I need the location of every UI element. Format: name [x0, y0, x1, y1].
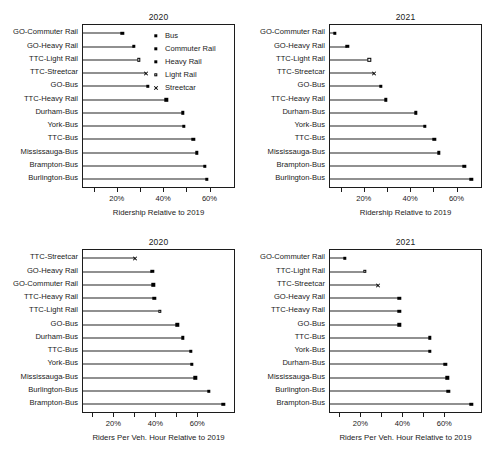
x-axis-title: Riders Per Veh. Hour Relative to 2019: [289, 433, 493, 442]
x-axis-tick-label: 20%: [353, 419, 368, 428]
y-axis-label: GO-Bus: [51, 81, 78, 89]
panel-bottom-left: 2020 TTC-StreetcarGO-Heavy RailGO-Commut…: [0, 233, 246, 453]
lollipop-row: [83, 298, 236, 299]
data-point-marker: [372, 71, 377, 76]
lollipop-row: [83, 271, 236, 272]
lollipop-row: [83, 179, 236, 180]
y-axis-label: GO-Heavy Rail: [274, 42, 325, 50]
lollipop-stem: [83, 258, 135, 259]
lollipop-stem: [330, 284, 378, 285]
x-axis-tick: [444, 413, 445, 417]
x-axis-tick-label: 40%: [156, 194, 171, 203]
lollipop-stem: [83, 311, 160, 312]
data-point-marker: [121, 32, 124, 35]
data-point-marker: [343, 257, 346, 260]
x-axis-tick-label: 40%: [395, 419, 410, 428]
lollipop-stem: [330, 59, 369, 60]
lollipop-stem: [330, 337, 430, 338]
y-axis-category-labels: GO-Commuter RailGO-Heavy RailTTC-Light R…: [247, 24, 325, 188]
lollipop-stem: [83, 351, 191, 352]
x-axis-tick: [155, 413, 156, 417]
lollipop-stem: [330, 86, 381, 87]
y-axis-label: TTC-Streetcar: [277, 280, 325, 288]
lollipop-row: [330, 404, 483, 405]
panel-bottom-right: 2021 GO-Commuter RailTTC-Light RailTTC-S…: [247, 233, 493, 453]
x-axis-tick: [113, 413, 114, 417]
y-axis-label: Brampton-Bus: [29, 399, 78, 407]
data-point-marker: [447, 389, 450, 392]
lollipop-stem: [83, 298, 154, 299]
y-axis-label: Durham-Bus: [35, 333, 78, 341]
lollipop-row: [83, 324, 236, 325]
lollipop-row: [330, 258, 483, 259]
lollipop-stem: [83, 284, 153, 285]
y-axis-label: TTC-Light Rail: [276, 267, 325, 275]
y-axis-label: Mississauga-Bus: [21, 373, 78, 381]
x-axis: Riders Per Veh. Hour Relative to 2019 20…: [82, 413, 235, 447]
lollipop-row: [330, 179, 483, 180]
lollipop-row: [330, 364, 483, 365]
y-axis-label: TTC-Bus: [295, 333, 325, 341]
lollipop-stem: [330, 311, 399, 312]
lollipop-row: [83, 404, 236, 405]
x-axis-tick: [457, 188, 458, 192]
x-axis-tick-label: 60%: [190, 419, 205, 428]
y-axis-label: Burlington-Bus: [28, 386, 78, 394]
y-axis-label: TTC-Bus: [48, 134, 78, 142]
x-axis: Ridership Relative to 2019 20%40%60%: [329, 188, 482, 222]
lollipop-row: [83, 391, 236, 392]
y-axis-label: GO-Heavy Rail: [274, 293, 325, 301]
data-point-marker: [176, 323, 179, 326]
y-axis-label: TTC-Light Rail: [29, 55, 78, 63]
y-axis-label: GO-Commuter Rail: [13, 280, 78, 288]
data-point-marker: [143, 71, 148, 76]
y-axis-label: Durham-Bus: [282, 359, 325, 367]
lollipop-stem: [330, 73, 374, 74]
lollipop-stem: [330, 152, 439, 153]
data-point-marker: [137, 58, 140, 61]
lollipop-row: [330, 152, 483, 153]
lollipop-stem: [83, 152, 197, 153]
data-point-marker: [333, 32, 336, 35]
x-axis-tick-label: 60%: [202, 194, 217, 203]
x-axis-tick: [186, 188, 187, 192]
panel-title: 2020: [82, 237, 235, 247]
lollipop-row: [330, 166, 483, 167]
data-rows: [83, 250, 234, 412]
data-point-marker: [397, 323, 400, 326]
lollipop-stem: [330, 364, 445, 365]
data-point-marker: [158, 310, 161, 313]
legend-item-label: Light Rail: [165, 70, 197, 79]
lollipop-stem: [83, 404, 223, 405]
y-axis-label: TTC-Bus: [295, 134, 325, 142]
x-axis-tick-label: 60%: [437, 419, 452, 428]
lollipop-stem: [83, 33, 122, 34]
lollipop-stem: [330, 377, 447, 378]
y-axis-label: TTC-Streetcar: [30, 68, 78, 76]
data-point-marker: [146, 85, 149, 88]
x-axis: Riders Per Veh. Hour Relative to 2019 20…: [329, 413, 482, 447]
x-axis-tick: [210, 188, 211, 192]
y-axis-label: Mississauga-Bus: [268, 373, 325, 381]
lollipop-stem: [83, 46, 134, 47]
x-axis-tick-label: 40%: [148, 419, 163, 428]
lollipop-row: [330, 271, 483, 272]
data-point-marker: [437, 151, 440, 154]
data-point-marker: [150, 270, 153, 273]
lollipop-stem: [83, 166, 205, 167]
data-point-marker: [379, 85, 382, 88]
x-axis-tick: [423, 413, 424, 417]
x-axis-tick: [92, 413, 93, 417]
x-axis-tick: [176, 413, 177, 417]
lollipop-stem: [83, 73, 146, 74]
lollipop-stem: [330, 179, 471, 180]
x-axis-title: Ridership Relative to 2019: [289, 208, 493, 217]
data-point-marker: [132, 45, 135, 48]
lollipop-stem: [83, 86, 148, 87]
lollipop-stem: [330, 139, 434, 140]
data-rows: [330, 25, 481, 187]
lollipop-stem: [330, 126, 425, 127]
data-point-marker: [189, 349, 192, 352]
lollipop-row: [83, 284, 236, 285]
y-axis-label: TTC-Heavy Rail: [24, 293, 78, 301]
